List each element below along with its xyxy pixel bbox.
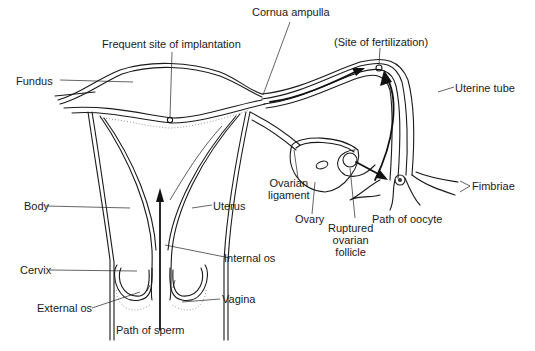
label-path-of-sperm: Path of sperm — [116, 324, 184, 336]
ruptured-follicle-icon — [343, 153, 357, 167]
label-vagina: Vagina — [222, 293, 255, 305]
fundus-outline — [55, 63, 262, 104]
label-ovarian-ligament: Ovarian ligament — [268, 177, 310, 201]
label-ruptured-line2: ovarian — [328, 234, 373, 246]
label-cervix: Cervix — [20, 264, 51, 276]
fimbriae — [338, 150, 458, 210]
oocyte-path-arrow — [356, 162, 388, 180]
label-ovarian-ligament-line1: Ovarian — [268, 177, 310, 189]
label-frequent-site-implantation: Frequent site of implantation — [102, 38, 241, 50]
label-ruptured-ovarian-follicle: Ruptured ovarian follicle — [328, 222, 373, 258]
label-ovary: Ovary — [295, 213, 324, 225]
label-external-os: External os — [37, 302, 92, 314]
uterus-outer-walls — [88, 112, 250, 340]
label-uterus: Uterus — [213, 200, 245, 212]
cervix-lips — [115, 265, 208, 310]
label-cornua-ampulla: Cornua ampulla — [252, 6, 330, 18]
oocyte-cell-icon — [395, 175, 405, 185]
label-body: Body — [24, 200, 49, 212]
label-ruptured-line3: follicle — [328, 246, 373, 258]
label-fimbriae: Fimbriae — [472, 180, 515, 192]
diagram-drawing — [0, 0, 535, 351]
label-ovarian-ligament-line2: ligament — [268, 189, 310, 201]
anatomy-diagram: Cornua ampulla Frequent site of implanta… — [0, 0, 535, 351]
label-site-of-fertilization: (Site of fertilization) — [334, 36, 428, 48]
label-uterine-tube: Uterine tube — [455, 82, 515, 94]
label-path-of-oocyte: Path of oocyte — [372, 213, 442, 225]
label-ruptured-line1: Ruptured — [328, 222, 373, 234]
label-internal-os: Internal os — [224, 252, 275, 264]
label-fundus: Fundus — [16, 75, 53, 87]
